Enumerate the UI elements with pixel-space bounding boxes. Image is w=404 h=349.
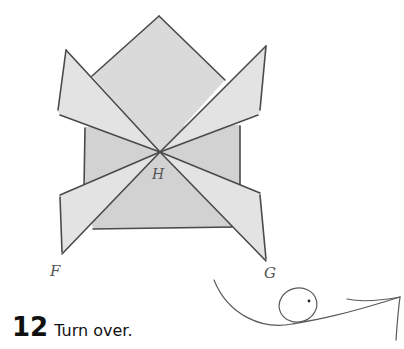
origami-fold-diagram: [0, 0, 404, 349]
label-h: H: [152, 166, 164, 182]
step-instruction: Turn over.: [54, 321, 132, 340]
label-g: G: [264, 264, 276, 282]
turn-over-arrow-icon: [214, 280, 400, 340]
step-number: 12: [12, 312, 48, 342]
label-f: F: [50, 262, 60, 280]
step-caption: 12 Turn over.: [12, 312, 133, 342]
